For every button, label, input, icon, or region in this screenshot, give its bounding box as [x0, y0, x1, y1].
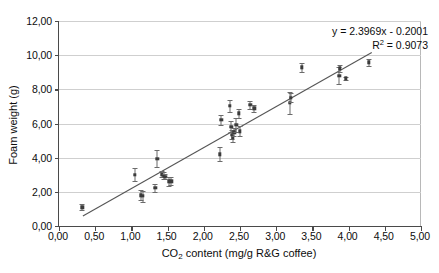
data-point [237, 112, 240, 115]
error-bar-cap [236, 109, 241, 110]
y-axis-tick-label: 6,00 [32, 119, 52, 130]
x-axis-title-rest: content (mg/g R&G coffee) [183, 247, 317, 259]
gridline [59, 89, 421, 90]
x-axis-title-main: CO [162, 247, 179, 259]
data-point [289, 96, 292, 99]
error-bar-cap [169, 185, 174, 186]
error-bar-cap [288, 102, 293, 103]
x-axis-tick-label: 4,50 [374, 231, 394, 242]
error-bar-cap [366, 59, 371, 60]
x-axis-title: CO2 content (mg/g R&G coffee) [58, 248, 420, 260]
error-bar-cap [217, 161, 222, 162]
regression-annotation: y = 2.3969x - 0.2001 R2 = 0.9073 [332, 24, 428, 52]
error-bar-cap [219, 115, 224, 116]
data-point [141, 194, 144, 197]
error-bar-cap [229, 121, 234, 122]
error-bar-cap [217, 147, 222, 148]
x-axis-tick-label: 0,00 [48, 231, 68, 242]
error-bar-cap [238, 136, 243, 137]
x-axis-tick-label: 4,00 [338, 231, 358, 242]
y-axis-tick-label: 10,00 [26, 50, 52, 61]
error-bar-cap [155, 150, 160, 151]
scatter-chart: Foam weight (g) 0,002,004,006,008,0010,0… [0, 0, 439, 273]
data-point [338, 67, 341, 70]
r-squared-prefix: R [372, 39, 380, 51]
data-point [154, 186, 157, 189]
data-point [238, 129, 241, 132]
error-bar-cap [299, 72, 304, 73]
data-point [170, 180, 173, 183]
r-squared-value: = 0.9073 [384, 39, 428, 51]
data-point [133, 173, 136, 176]
error-bar-cap [169, 177, 174, 178]
y-axis-tick [55, 21, 59, 22]
y-axis-tick [55, 55, 59, 56]
gridline [59, 55, 421, 56]
error-bar-cap [133, 181, 138, 182]
error-bar-cap [248, 101, 253, 102]
error-bar-cap [236, 118, 241, 119]
error-bar-cap [287, 114, 292, 115]
error-bar-cap [227, 112, 232, 113]
error-bar-cap [299, 63, 304, 64]
data-point [228, 104, 231, 107]
y-axis-tick [55, 158, 59, 159]
error-bar-cap [366, 66, 371, 67]
error-bar-cap [337, 72, 342, 73]
gridline [59, 21, 421, 22]
data-point [218, 153, 221, 156]
error-bar-cap [140, 191, 145, 192]
error-bar-cap [288, 93, 293, 94]
y-axis-tick-label: 12,00 [26, 16, 52, 27]
error-bar-cap [343, 80, 348, 81]
x-axis-title-subscript: 2 [178, 252, 182, 261]
x-axis-tick-label: 3,50 [301, 231, 321, 242]
y-axis-title-label: Foam weight (g) [8, 85, 19, 164]
error-bar-cap [153, 192, 158, 193]
data-point [367, 61, 370, 64]
error-bar-cap [153, 184, 158, 185]
error-bar-cap [238, 126, 243, 127]
error-bar-cap [337, 65, 342, 66]
error-bar-cap [232, 136, 237, 137]
x-axis-tick-label: 3,00 [265, 231, 285, 242]
r-squared-line: R2 = 0.9073 [332, 38, 428, 52]
gridline [59, 124, 421, 125]
error-bar-cap [252, 112, 257, 113]
y-axis-tick-label: 4,00 [32, 153, 52, 164]
data-point [337, 74, 340, 77]
error-bar-cap [219, 125, 224, 126]
y-axis-tick-label: 8,00 [32, 84, 52, 95]
y-axis-tick [55, 124, 59, 125]
error-bar-cap [80, 210, 85, 211]
data-point [300, 66, 303, 69]
x-axis-tick-label: 2,00 [193, 231, 213, 242]
y-axis-tick-label: 2,00 [32, 187, 52, 198]
error-bar-cap [227, 100, 232, 101]
data-point [253, 106, 256, 109]
error-bar-cap [140, 202, 145, 203]
gridline [59, 158, 421, 159]
error-bar-cap [155, 167, 160, 168]
data-point [219, 118, 222, 121]
x-axis-tick-label: 0,50 [84, 231, 104, 242]
error-bar-cap [230, 142, 235, 143]
y-axis-title: Foam weight (g) [4, 55, 22, 195]
x-axis-tick-label: 1,50 [157, 231, 177, 242]
error-bar-cap [133, 168, 138, 169]
error-bar-cap [161, 172, 166, 173]
y-axis-tick [55, 192, 59, 193]
data-point [80, 206, 83, 209]
error-bar-cap [337, 84, 342, 85]
y-axis-tick [55, 89, 59, 90]
data-point [156, 157, 159, 160]
regression-equation: y = 2.3969x - 0.2001 [332, 24, 428, 38]
x-axis-tick-label: 5,00 [410, 231, 430, 242]
gridline [59, 192, 421, 193]
x-axis-tick-label: 2,50 [229, 231, 249, 242]
data-point [344, 77, 347, 80]
x-axis-tick-label: 1,00 [120, 231, 140, 242]
